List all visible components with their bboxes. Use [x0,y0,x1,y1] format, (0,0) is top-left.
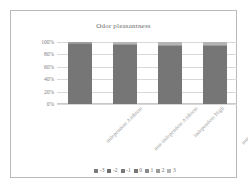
legend-item[interactable]: -3 [94,168,104,174]
y-axis-tick-label: 100% [41,39,54,45]
x-axis-tick-label: non-independent High [240,105,248,146]
stacked-bar[interactable] [203,42,227,104]
legend-item[interactable]: 3 [167,168,175,174]
legend-label: 2 [162,168,165,174]
legend-item[interactable]: 1 [145,168,153,174]
legend-label: 3 [173,168,176,174]
y-axis-tick-label: 0% [47,101,54,107]
y-axis-tick-label: 60% [44,64,54,70]
legend-item[interactable]: 0 [134,168,142,174]
chart-screenshot: Odor pleasantness 0%20%40%60%80%100% ind… [0,0,248,190]
legend-swatch-icon [145,169,149,173]
stacked-bar[interactable] [113,42,137,104]
legend-swatch-icon [134,169,138,173]
x-axis-tick-label: independent Ambient [104,105,143,144]
bar-series-group [57,42,237,104]
x-axis-tick-label: non-independent Ambient [152,105,198,151]
chart-title: Odor pleasantness [11,22,236,30]
y-axis-tick-label: 80% [44,51,54,57]
legend-item[interactable]: -2 [107,168,117,174]
y-axis-tick-label: 20% [44,89,54,95]
legend-swatch-icon [107,169,111,173]
stacked-bar[interactable] [68,42,92,104]
legend-label: 0 [139,168,142,174]
bar-slot [68,42,92,104]
y-axis-tick-label: 40% [44,76,54,82]
legend-swatch-icon [94,169,98,173]
legend-swatch-icon [167,169,171,173]
legend-item[interactable]: -1 [121,168,131,174]
chart-frame: Odor pleasantness 0%20%40%60%80%100% ind… [10,10,237,178]
bar-slot [113,42,137,104]
legend-label: -1 [126,168,131,174]
bar-segment[interactable] [68,44,92,104]
legend-label: -3 [100,168,105,174]
chart-legend: -3-2-10123 [11,168,248,174]
legend-item[interactable]: 2 [156,168,164,174]
x-axis-tick-labels: independent Ambientnon-independent Ambie… [57,105,237,160]
legend-swatch-icon [121,169,125,173]
bar-segment[interactable] [203,46,227,104]
bar-segment[interactable] [113,45,137,104]
bar-segment[interactable] [158,46,182,104]
legend-swatch-icon [156,169,160,173]
legend-label: 1 [150,168,153,174]
stacked-bar[interactable] [158,42,182,104]
legend-label: -2 [113,168,118,174]
bar-slot [158,42,182,104]
bar-slot [203,42,227,104]
plot-area: 0%20%40%60%80%100% [57,42,237,104]
